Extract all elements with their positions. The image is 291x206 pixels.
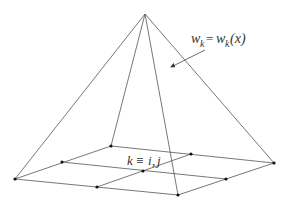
label-pointer-arrow (171, 50, 205, 67)
node-left-back-mid (60, 160, 63, 163)
pyramid-basis-diagram: w k = w k (x) k ≡ i , j (0, 0, 291, 206)
index-equiv: ≡ (136, 153, 143, 168)
label-equals: = (206, 31, 213, 46)
index-comma: , (152, 153, 155, 168)
index-k: k (127, 153, 133, 168)
weight-function-label: w k = w k (x) (191, 31, 246, 49)
edge-apex-left (15, 14, 145, 179)
node-center (141, 169, 144, 172)
label-subscript-k: k (200, 38, 205, 49)
grid-nodes (13, 144, 275, 196)
label-rhs-arg: (x) (230, 31, 246, 47)
node-back (109, 144, 112, 147)
node-back-right-mid (189, 152, 192, 155)
node-left (13, 177, 16, 180)
edge-apex-back (111, 14, 145, 146)
node-front-left-mid (95, 185, 98, 188)
node-right (272, 161, 275, 164)
node-index-label: k ≡ i , j (127, 153, 161, 168)
index-j: j (155, 153, 161, 168)
node-right-front-mid (224, 177, 227, 180)
node-front (176, 193, 179, 196)
